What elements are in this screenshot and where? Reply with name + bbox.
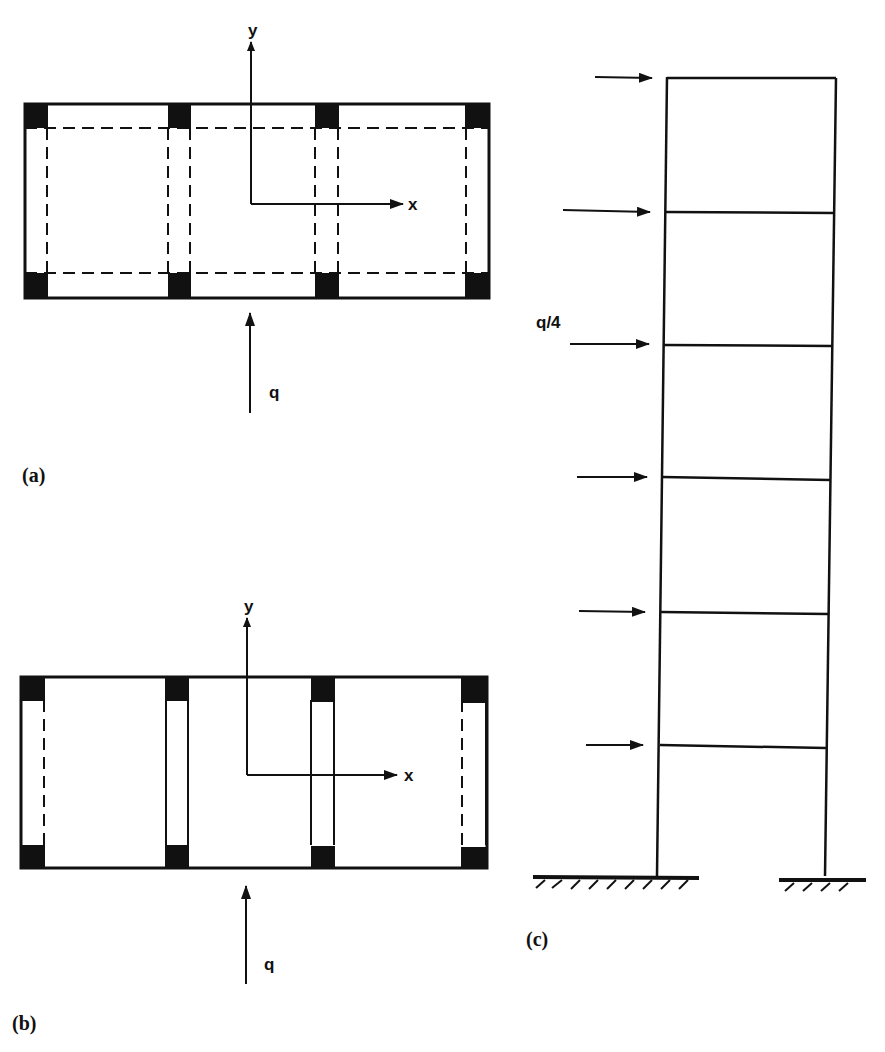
- slab-outline: [25, 104, 489, 298]
- load-label: q: [269, 383, 279, 402]
- columns: [25, 104, 489, 298]
- columns: [20, 677, 487, 868]
- panel-caption: (b): [12, 1012, 36, 1035]
- load-arrow: [579, 611, 645, 612]
- load-label: q: [264, 955, 274, 974]
- dashed-beam-lines: [25, 128, 489, 273]
- x-axis-label: x: [408, 195, 418, 214]
- panel-b-plan: y x q (b): [12, 597, 487, 1035]
- load-arrow: [595, 77, 652, 78]
- frame: [657, 77, 836, 876]
- ground-support-left: [533, 877, 699, 889]
- x-axis-label: x: [404, 766, 414, 785]
- ground-support-right: [779, 880, 866, 891]
- wall-edges: [21, 700, 486, 845]
- panel-caption: (a): [22, 464, 45, 487]
- load-arrow: [563, 210, 650, 212]
- floor-beam: [660, 745, 826, 748]
- lateral-load-arrows: [563, 77, 652, 745]
- panel-c-elevation: q/4 (c): [526, 77, 866, 951]
- floor-beam: [661, 612, 828, 614]
- structural-diagram: y x q (a): [0, 0, 885, 1052]
- y-axis-label: y: [244, 597, 254, 616]
- slab-outline: [21, 677, 487, 868]
- floor-beam: [663, 345, 832, 346]
- y-axis-label: y: [248, 21, 258, 40]
- load-label: q/4: [536, 313, 561, 332]
- right-column: [825, 78, 836, 876]
- panel-caption: (c): [526, 928, 548, 951]
- dashed-column-lines: [44, 700, 462, 845]
- floor-beam: [662, 477, 830, 480]
- panel-a-plan: y x q (a): [22, 21, 489, 487]
- floor-beam: [665, 212, 834, 213]
